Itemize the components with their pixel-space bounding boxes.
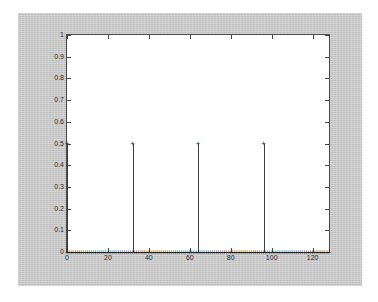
stem-line — [67, 144, 68, 253]
screenshot-root: 02040608010012000.10.20.30.40.50.60.70.8… — [0, 0, 378, 302]
stem-line — [133, 144, 134, 253]
x-axis-tick-top — [231, 35, 232, 39]
stem-peak-marker: + — [261, 140, 266, 148]
y-axis-tick-label: 0.6 — [54, 118, 64, 126]
stem-peak-marker: + — [196, 140, 201, 148]
y-axis-tick — [67, 35, 71, 36]
matlab-figure-window: 02040608010012000.10.20.30.40.50.60.70.8… — [18, 13, 362, 286]
x-axis-tick-top — [190, 35, 191, 39]
x-axis-tick-top — [272, 35, 273, 39]
y-axis-tick — [67, 100, 71, 101]
y-axis-tick-label: 0.4 — [54, 161, 64, 169]
y-axis-tick — [67, 78, 71, 79]
y-axis-tick-label: 0.1 — [54, 226, 64, 234]
x-axis-tick-top — [108, 35, 109, 39]
y-axis-tick-label: 0.3 — [54, 183, 64, 191]
y-axis-tick-label: 0 — [60, 248, 64, 256]
stem-line — [264, 144, 265, 253]
y-axis-tick-right — [325, 144, 329, 145]
y-axis-tick-right — [325, 35, 329, 36]
x-axis-tick-top — [149, 35, 150, 39]
stem-peak-marker: + — [130, 140, 135, 148]
baseline-sample-marker: + — [196, 249, 200, 256]
baseline-sample-marker: + — [327, 249, 331, 256]
y-axis-tick-label: 0.8 — [54, 74, 64, 82]
stem-peak-marker: + — [65, 140, 70, 148]
y-axis-tick-right — [325, 78, 329, 79]
y-axis-tick-right — [325, 100, 329, 101]
y-axis-tick-right — [325, 165, 329, 166]
plot-axes: 02040608010012000.10.20.30.40.50.60.70.8… — [66, 34, 330, 253]
plot-area: 02040608010012000.10.20.30.40.50.60.70.8… — [67, 35, 329, 252]
x-axis-tick-top — [313, 35, 314, 39]
y-axis-tick-label: 0.5 — [54, 140, 64, 148]
y-axis-tick-right — [325, 122, 329, 123]
y-axis-tick — [67, 122, 71, 123]
y-axis-tick-right — [325, 209, 329, 210]
y-axis-tick-right — [325, 57, 329, 58]
baseline-sample-marker: + — [65, 249, 69, 256]
y-axis-tick-label: 0.2 — [54, 205, 64, 213]
y-axis-tick — [67, 57, 71, 58]
baseline-sample-marker: + — [261, 249, 265, 256]
y-axis-tick-right — [325, 230, 329, 231]
y-axis-tick-label: 0.7 — [54, 96, 64, 104]
baseline-sample-marker: + — [130, 249, 134, 256]
stem-line — [198, 144, 199, 253]
y-axis-tick-label: 0.9 — [54, 53, 64, 61]
y-axis-tick-label: 1 — [60, 31, 64, 39]
y-axis-tick-right — [325, 187, 329, 188]
